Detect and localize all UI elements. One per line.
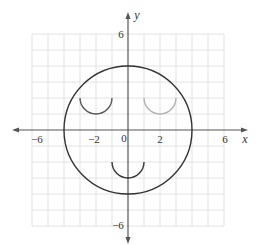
x-tick-label-neg6: −6 — [31, 133, 43, 145]
x-tick-label-6: 6 — [222, 133, 228, 145]
x-axis-left-arrow-icon — [12, 128, 19, 133]
coordinate-plane: −6 −2 0 2 6 x 6 −6 y — [0, 0, 259, 245]
y-tick-label-neg6: −6 — [112, 219, 124, 231]
origin-label: 0 — [121, 132, 127, 144]
y-axis-down-arrow-icon — [126, 237, 131, 244]
y-axis-up-arrow-icon — [126, 12, 131, 19]
x-tick-label-neg2: −2 — [88, 133, 100, 145]
y-tick-label-6: 6 — [118, 28, 124, 40]
x-axis-label: x — [241, 132, 248, 146]
x-tick-label-2: 2 — [157, 133, 163, 145]
y-axis-label: y — [133, 8, 140, 22]
